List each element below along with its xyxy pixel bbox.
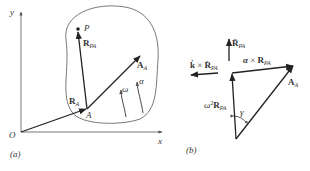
alpha-arrow xyxy=(137,82,143,113)
vector-a-a-b xyxy=(236,66,293,139)
omega-label: ω xyxy=(122,84,128,94)
kinematics-diagram: y x O P RA A RPA AA ω α (a) R̈PA k̇ × ṘP… xyxy=(0,0,310,171)
vector-omega2-label: ω2RPA xyxy=(204,100,227,111)
omega-arrow xyxy=(121,90,126,117)
figure-b: R̈PA k̇ × ṘPA ω2RPA α × RPA AA γ (b) xyxy=(186,38,299,155)
x-axis-label: x xyxy=(157,136,162,146)
vector-omega2-r-pa xyxy=(232,74,236,139)
vector-r-a-label: RA xyxy=(69,96,80,107)
caption-b: (b) xyxy=(186,145,197,155)
vector-k-cross-label: k̇ × ṘPA xyxy=(190,59,218,71)
vector-a-a xyxy=(87,56,140,109)
vector-a-a-b-label: AA xyxy=(288,77,299,88)
origin-label: O xyxy=(9,130,16,140)
vector-alpha-cross-label: α × RPA xyxy=(243,55,271,66)
vector-r-a xyxy=(21,109,86,132)
point-p xyxy=(76,27,80,31)
point-p-label: P xyxy=(83,23,90,33)
angle-gamma-label: γ xyxy=(240,107,244,117)
vector-r-pa-ddot-label: R̈PA xyxy=(232,38,245,49)
point-a-label: A xyxy=(85,110,92,120)
vector-k-cross-r-pa-dot xyxy=(191,73,218,75)
caption-a: (a) xyxy=(10,149,21,159)
figure-a: y x O P RA A RPA AA ω α (a) xyxy=(9,6,162,159)
angle-gamma-arc xyxy=(234,116,248,124)
y-axis-label: y xyxy=(9,7,14,17)
vector-alpha-cross-r-pa xyxy=(232,66,293,73)
alpha-label: α xyxy=(139,76,144,86)
vector-r-pa-label: RPA xyxy=(83,38,96,49)
vector-a-a-label: AA xyxy=(137,60,148,71)
